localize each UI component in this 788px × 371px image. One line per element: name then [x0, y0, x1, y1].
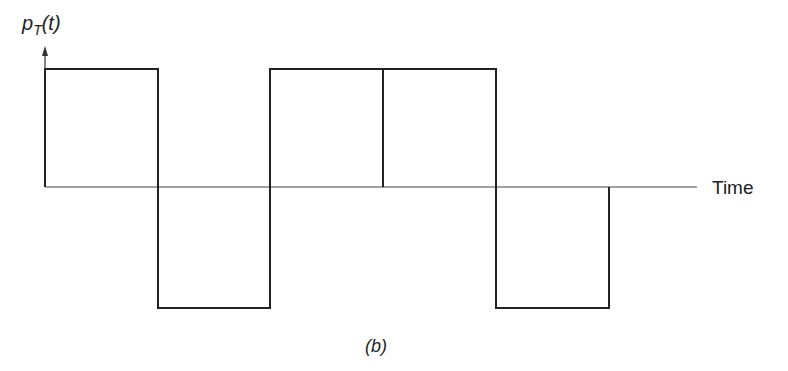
pulse-train	[45, 69, 609, 308]
waveform	[45, 69, 609, 308]
y-axis-arrow-icon	[42, 46, 48, 56]
waveform-diagram: pT(t) Time (b)	[0, 0, 788, 371]
figure-caption: (b)	[365, 336, 387, 356]
x-axis-label: Time	[712, 177, 754, 198]
y-axis-label: pT(t)	[21, 12, 61, 38]
